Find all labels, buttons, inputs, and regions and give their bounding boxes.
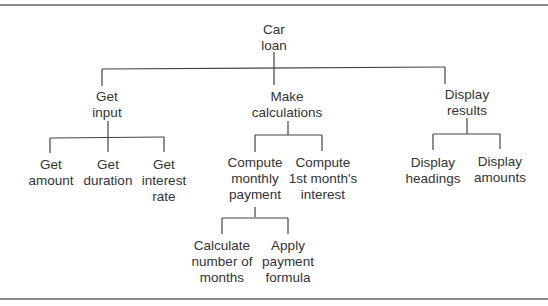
node-line: Get xyxy=(84,157,133,173)
node-apply-payment-formula: Apply payment formula xyxy=(262,238,314,286)
node-line: Make xyxy=(252,89,323,105)
node-line: Compute xyxy=(289,155,358,171)
node-compute-monthly-payment: Compute monthly payment xyxy=(228,155,283,203)
node-line: Apply xyxy=(262,238,314,254)
node-line: Display xyxy=(474,154,526,170)
node-get-amount: Get amount xyxy=(28,157,73,189)
node-line: calculations xyxy=(252,105,323,121)
node-line: Get xyxy=(142,157,186,173)
node-line: Display xyxy=(406,155,461,171)
node-line: interest xyxy=(289,187,358,203)
node-get-input: Get input xyxy=(92,89,121,121)
node-line: interest xyxy=(142,173,186,189)
node-line: months xyxy=(192,270,253,286)
node-line: amounts xyxy=(474,170,526,186)
node-line: 1st month's xyxy=(289,171,358,187)
node-line: loan xyxy=(261,38,287,54)
node-line: rate xyxy=(142,189,186,205)
node-display-results: Display results xyxy=(445,87,489,119)
node-get-duration: Get duration xyxy=(84,157,133,189)
node-line: Calculate xyxy=(192,238,253,254)
node-line: payment xyxy=(228,187,283,203)
node-get-interest-rate: Get interest rate xyxy=(142,157,186,205)
node-display-headings: Display headings xyxy=(406,155,461,187)
node-line: duration xyxy=(84,173,133,189)
node-line: results xyxy=(445,103,489,119)
node-line: Compute xyxy=(228,155,283,171)
node-line: amount xyxy=(28,173,73,189)
node-compute-first-months-interest: Compute 1st month's interest xyxy=(289,155,358,203)
node-line: headings xyxy=(406,171,461,187)
node-line: input xyxy=(92,105,121,121)
node-display-amounts: Display amounts xyxy=(474,154,526,186)
node-car-loan: Car loan xyxy=(261,22,287,54)
node-line: formula xyxy=(262,270,314,286)
node-line: Display xyxy=(445,87,489,103)
node-line: Car xyxy=(261,22,287,38)
node-line: number of xyxy=(192,254,253,270)
node-calculate-number-of-months: Calculate number of months xyxy=(192,238,253,286)
node-line: monthly xyxy=(228,171,283,187)
node-line: Get xyxy=(92,89,121,105)
node-line: Get xyxy=(28,157,73,173)
node-make-calculations: Make calculations xyxy=(252,89,323,121)
node-line: payment xyxy=(262,254,314,270)
